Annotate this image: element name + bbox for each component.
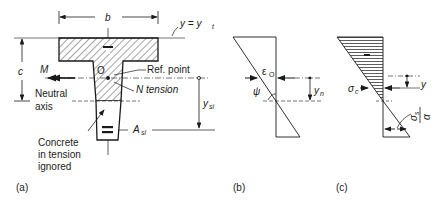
reference-point-dot — [106, 76, 110, 80]
svg-text:α: α — [421, 114, 432, 120]
neutral-axis-label: Neutral — [35, 88, 67, 99]
panel-a: b y = y t c — [14, 11, 215, 193]
concrete-stress-label: σ — [348, 83, 355, 94]
steel-distance-label: y — [202, 98, 209, 109]
panel-c-stress: σ c y σ s α (c) — [336, 37, 432, 193]
steel-bar-icon — [102, 131, 113, 133]
origin-label: O — [97, 65, 105, 76]
moment-label: M — [40, 64, 49, 75]
svg-text:n: n — [320, 90, 324, 97]
normal-force-label: N tension — [136, 84, 179, 95]
top-fiber-label: y = y — [179, 18, 202, 29]
steel-area-label: A — [132, 124, 140, 135]
compression-sign — [103, 46, 113, 48]
panel-b-strain: ε O ψ y n (b) — [233, 37, 324, 193]
y-label: y — [420, 79, 427, 90]
steel-stress-ratio: σ s α — [408, 107, 432, 123]
compression-sign — [364, 54, 370, 56]
svg-text:si: si — [209, 103, 215, 110]
cross-section-diagram: b y = y t c — [0, 0, 437, 202]
steel-bar-icon — [102, 126, 113, 128]
tension-note: Concrete — [38, 137, 79, 148]
curvature-label: ψ — [253, 86, 261, 97]
svg-text:si: si — [141, 129, 147, 136]
panel-c-caption: (c) — [336, 182, 348, 193]
panel-a-caption: (a) — [16, 182, 28, 193]
depth-label: c — [18, 66, 23, 77]
width-label: b — [105, 12, 111, 23]
strain-label: ε — [262, 66, 267, 77]
svg-text:in tension: in tension — [38, 149, 81, 160]
svg-text:axis: axis — [35, 101, 53, 112]
ref-point-label: Ref. point — [147, 64, 190, 75]
svg-text:c: c — [355, 88, 359, 95]
na-depth-label: y — [313, 85, 320, 96]
svg-text:ignored: ignored — [38, 161, 71, 172]
svg-text:O: O — [269, 71, 275, 78]
svg-text:t: t — [212, 23, 215, 30]
svg-text:s: s — [413, 111, 420, 115]
panel-b-caption: (b) — [233, 182, 245, 193]
